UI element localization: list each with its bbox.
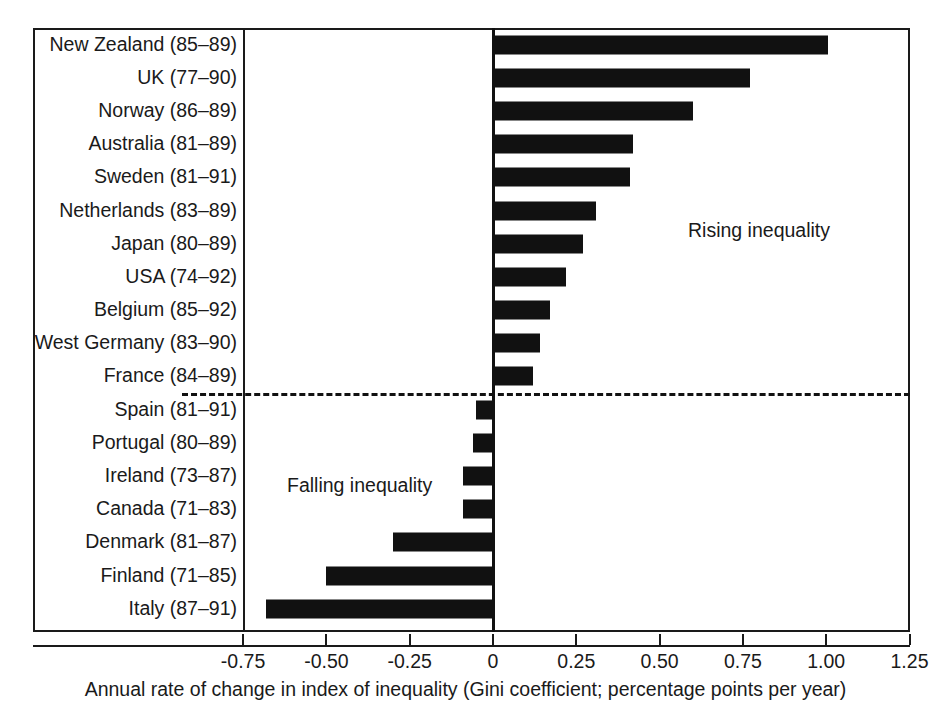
x-tick-label: 0	[488, 650, 499, 673]
x-tick-label: 0.50	[641, 650, 679, 673]
bar	[493, 35, 828, 54]
bar	[493, 234, 583, 253]
bar-row: Sweden (81–91)	[0, 161, 931, 194]
bar-row: Belgium (85–92)	[0, 294, 931, 327]
x-tick-mark	[575, 634, 577, 645]
bar	[493, 101, 693, 120]
bar-row: Australia (81–89)	[0, 128, 931, 161]
x-tick-mark	[409, 634, 411, 645]
x-tick-label: -0.25	[387, 650, 431, 673]
bar-row: Finland (71–85)	[0, 559, 931, 592]
bar-category-label: Norway (86–89)	[98, 101, 237, 121]
bar-category-label: Australia (81–89)	[89, 134, 238, 154]
bar	[493, 267, 566, 286]
bar	[326, 566, 493, 585]
bar	[266, 599, 493, 618]
x-tick-mark	[825, 634, 827, 645]
bar-row: France (84–89)	[0, 360, 931, 393]
annotation-rising-inequality: Rising inequality	[688, 219, 830, 242]
bar-category-label: USA (74–92)	[125, 267, 237, 287]
rising-falling-divider	[182, 393, 910, 396]
bar-row: Portugal (80–89)	[0, 426, 931, 459]
bar-row: UK (77–90)	[0, 61, 931, 94]
bar	[493, 334, 540, 353]
x-tick-mark	[242, 634, 244, 645]
annotation-falling-inequality: Falling inequality	[287, 474, 432, 497]
x-tick-mark	[325, 634, 327, 645]
bar-chart: New Zealand (85–89)UK (77–90)Norway (86–…	[0, 0, 931, 707]
bar-category-label: Italy (87–91)	[129, 599, 237, 619]
bar-category-label: Finland (71–85)	[100, 566, 237, 586]
bar-row: Norway (86–89)	[0, 94, 931, 127]
x-tick-mark	[659, 634, 661, 645]
bar-row: Denmark (81–87)	[0, 526, 931, 559]
bar	[493, 201, 596, 220]
bar-category-label: Ireland (73–87)	[105, 466, 237, 486]
bar	[493, 168, 630, 187]
bar-category-label: Belgium (85–92)	[94, 300, 237, 320]
bar-row: Canada (71–83)	[0, 493, 931, 526]
bar-category-label: Sweden (81–91)	[94, 168, 237, 188]
bar	[493, 367, 533, 386]
bar-rows: New Zealand (85–89)UK (77–90)Norway (86–…	[0, 28, 931, 625]
bar	[493, 68, 750, 87]
bar-category-label: UK (77–90)	[137, 68, 237, 88]
x-tick-mark	[742, 634, 744, 645]
bar-category-label: Netherlands (83–89)	[59, 201, 237, 221]
bar-category-label: Denmark (81–87)	[85, 533, 237, 553]
x-tick-label: 0.75	[724, 650, 762, 673]
x-tick-label: 1.00	[807, 650, 845, 673]
bar-category-label: France (84–89)	[104, 367, 237, 387]
bar-category-label: Japan (80–89)	[111, 234, 237, 254]
bar	[493, 135, 633, 154]
bar-category-label: Canada (71–83)	[96, 499, 237, 519]
bar-row: USA (74–92)	[0, 260, 931, 293]
bar-category-label: New Zealand (85–89)	[49, 35, 237, 55]
x-axis-title: Annual rate of change in index of inequa…	[0, 678, 931, 701]
bar-row: West Germany (83–90)	[0, 327, 931, 360]
x-tick-mark	[492, 634, 494, 645]
x-tick-label: -0.75	[221, 650, 265, 673]
bar-category-label: Portugal (80–89)	[92, 433, 237, 453]
bar-row: Ireland (73–87)	[0, 459, 931, 492]
x-tick-label: 1.25	[891, 650, 929, 673]
bar-row: Spain (81–91)	[0, 393, 931, 426]
bar	[463, 467, 493, 486]
x-tick-mark	[909, 634, 911, 645]
bar	[473, 433, 493, 452]
bar	[476, 400, 493, 419]
x-axis-line	[33, 645, 910, 647]
bar-category-label: West Germany (83–90)	[35, 334, 237, 354]
x-tick-label: -0.50	[304, 650, 348, 673]
zero-axis-line	[492, 28, 495, 632]
bar-row: New Zealand (85–89)	[0, 28, 931, 61]
bar-category-label: Spain (81–91)	[114, 400, 237, 420]
bar	[463, 500, 493, 519]
bar	[393, 533, 493, 552]
bar	[493, 301, 550, 320]
x-tick-label: 0.25	[557, 650, 595, 673]
bar-row: Italy (87–91)	[0, 592, 931, 625]
